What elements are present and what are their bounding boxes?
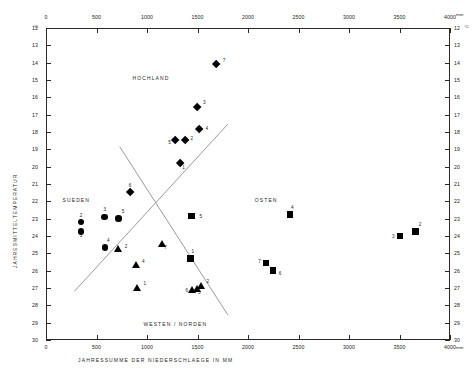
region-divider-lines: [46, 28, 450, 340]
plot-area: 73425162135427416325147632 HOCHLANDSUEDE…: [46, 28, 450, 340]
y-tick: [445, 323, 450, 324]
y-tick: [445, 253, 450, 254]
x-tick: [198, 335, 199, 340]
y-tick-label: 25: [32, 250, 38, 256]
data-point-label: 6: [129, 183, 132, 188]
y-tick-label: 20: [32, 164, 38, 170]
y-tick: [46, 184, 51, 185]
x-tick-label: 1500: [192, 14, 204, 20]
x-tick: [299, 28, 300, 33]
region-label: OSTEN: [255, 197, 278, 203]
y-tick-label: 29: [454, 320, 460, 326]
x-tick-label: 0: [45, 344, 48, 350]
x-tick-label: 3500: [394, 14, 406, 20]
data-point-label: 4: [206, 126, 209, 131]
x-tick-label: 3000: [343, 14, 355, 20]
data-point-diamond: [172, 137, 178, 143]
y-tick: [46, 271, 51, 272]
x-tick-label: 1000: [141, 344, 153, 350]
y-axis-title: JAHRESMITTELTEMPERATUR: [12, 174, 18, 268]
y-tick: [46, 115, 51, 116]
data-point-square: [188, 213, 194, 219]
data-point-label: 3: [392, 234, 395, 239]
data-point-square: [397, 233, 403, 239]
y-tick: [445, 288, 450, 289]
y-tick: [46, 132, 51, 133]
data-point-label: 6: [279, 271, 282, 276]
y-tick-label: 22: [454, 198, 460, 204]
y-tick-label: 16: [32, 94, 38, 100]
y-tick-label: 28: [454, 302, 460, 308]
y-tick-label: 21: [454, 181, 460, 187]
data-point-square: [187, 255, 193, 261]
x-tick: [450, 335, 451, 340]
data-point-triangle: [197, 282, 206, 289]
x-tick-label: 3000: [343, 344, 355, 350]
y-tick-label: 27: [454, 285, 460, 291]
data-point-diamond: [182, 137, 188, 143]
y-tick: [46, 28, 51, 29]
y-tick-label: 29: [32, 320, 38, 326]
data-point-label: 3: [203, 100, 206, 105]
y-tick: [445, 97, 450, 98]
x-unit-bottom: mm: [456, 345, 463, 350]
data-point-label: 2: [125, 244, 128, 249]
y-tick-label: 24: [32, 233, 38, 239]
data-point-label: 1: [143, 281, 146, 286]
data-point-label: 5: [122, 209, 125, 214]
x-axis-title: JAHRESSUMME DER NIEDERSCHLAEGE IN MM: [78, 357, 233, 363]
y-tick-label: 15: [454, 77, 460, 83]
data-point-triangle: [114, 245, 123, 252]
y-tick: [46, 201, 51, 202]
y-tick-label: 23: [454, 216, 460, 222]
data-point-diamond: [196, 126, 202, 132]
x-unit-top: mm: [456, 12, 463, 17]
data-point-label: 7: [164, 245, 167, 250]
x-tick-label: 2000: [242, 14, 254, 20]
data-point-label: 2: [190, 136, 193, 141]
y-tick-label: 21: [32, 181, 38, 187]
region-label: SUEDEN: [63, 197, 90, 203]
y-tick-label: 13: [454, 42, 460, 48]
y-tick: [46, 80, 51, 81]
x-tick: [299, 335, 300, 340]
data-point-label: 2: [80, 213, 83, 218]
y-tick-label: 25: [454, 250, 460, 256]
y-tick: [445, 219, 450, 220]
data-point-square: [287, 211, 293, 217]
y-tick-label: 18: [454, 129, 460, 135]
x-tick: [400, 28, 401, 33]
data-point-label: 3: [198, 290, 201, 295]
y-tick: [445, 80, 450, 81]
y-tick: [46, 305, 51, 306]
divider-sw-ne: [74, 124, 228, 291]
y-tick: [46, 323, 51, 324]
data-point-circle: [102, 244, 109, 251]
data-point-circle: [115, 215, 122, 222]
y-tick-label: 22: [32, 198, 38, 204]
y-tick: [445, 45, 450, 46]
y-tick-label: 13: [32, 42, 38, 48]
data-point-diamond: [194, 104, 200, 110]
region-label: HOCHLAND: [133, 75, 170, 81]
x-tick: [400, 335, 401, 340]
y-tick: [445, 28, 450, 29]
y-tick-label: 26: [32, 268, 38, 274]
y-tick-label: 27: [32, 285, 38, 291]
y-tick: [46, 236, 51, 237]
x-tick: [349, 28, 350, 33]
chart-figure: 73425162135427416325147632 HOCHLANDSUEDE…: [0, 0, 476, 369]
x-tick: [97, 28, 98, 33]
data-point-label: 7: [223, 58, 226, 63]
x-tick-label: 500: [92, 14, 101, 20]
data-point-label: 4: [107, 238, 110, 243]
y-tick-label: 28: [32, 302, 38, 308]
y-tick-label: 12: [454, 25, 460, 31]
x-tick-label: 3500: [394, 344, 406, 350]
y-tick-label: 23: [32, 216, 38, 222]
y-tick: [46, 97, 51, 98]
region-label: WESTEN / NORDEN: [143, 321, 207, 327]
data-point-diamond: [213, 61, 219, 67]
data-point-square: [270, 267, 276, 273]
x-tick-label: 4000: [444, 14, 456, 20]
